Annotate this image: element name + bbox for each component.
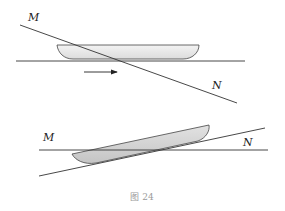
top-diagram: M N [16,11,245,103]
diagram-svg: M N M N 图 24 [0,0,285,211]
label-n-bottom: N [242,136,253,149]
label-m-bottom: M [42,131,55,144]
slanted-line-mn-top [20,25,237,103]
label-n-top: N [211,79,222,92]
figure-24: M N M N 图 24 [0,0,285,211]
boat-top [57,45,199,59]
label-m-top: M [27,11,40,24]
bottom-diagram: M N [39,125,268,176]
slanted-line-bottom [39,128,265,176]
figure-caption: 图 24 [130,192,154,202]
